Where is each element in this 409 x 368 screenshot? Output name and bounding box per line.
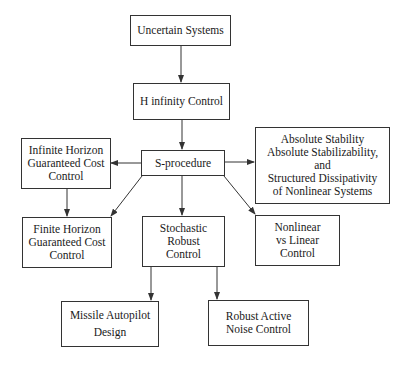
node-label: Control — [49, 249, 84, 262]
node-label: and — [314, 159, 331, 172]
node-label: Absolute Stability — [281, 133, 364, 146]
node-h-infinity-control: H infinity Control — [133, 83, 230, 120]
node-missile-autopilot: Missile Autopilot Design — [61, 301, 159, 347]
node-label: Stochastic — [160, 222, 207, 235]
node-label: Structured Dissipativity — [268, 172, 378, 185]
node-label: vs Linear — [276, 234, 319, 247]
node-robust-active-noise: Robust Active Noise Control — [208, 300, 309, 346]
node-label: Guaranteed Cost — [28, 157, 105, 170]
node-finite-horizon: Finite Horizon Guaranteed Cost Control — [22, 217, 112, 268]
node-label: S-procedure — [155, 157, 211, 170]
node-uncertain-systems: Uncertain Systems — [130, 15, 231, 46]
node-label: Noise Control — [226, 323, 291, 336]
node-infinite-horizon: Infinite Horizon Guaranteed Cost Control — [21, 138, 111, 189]
node-label: H infinity Control — [140, 95, 223, 108]
node-label: Robust Active — [226, 310, 292, 323]
arrow-sproc-to-nonlinear — [224, 176, 255, 214]
node-label: Control — [166, 248, 201, 261]
node-label: Control — [48, 170, 83, 183]
node-label: Guaranteed Cost — [29, 236, 106, 249]
node-s-procedure: S-procedure — [141, 150, 225, 176]
node-label: Robust — [167, 235, 200, 248]
node-label: Uncertain Systems — [137, 24, 224, 37]
node-label: Design — [94, 326, 127, 339]
arrow-sproc-to-finite — [111, 176, 142, 216]
node-nonlinear-vs-linear: Nonlinear vs Linear Control — [255, 215, 340, 266]
node-label: Finite Horizon — [33, 223, 100, 236]
node-label: Missile Autopilot — [70, 309, 150, 322]
node-stochastic-robust-control: Stochastic Robust Control — [142, 216, 225, 267]
node-label: Absolute Stabilizability, — [267, 146, 378, 159]
node-label: of Nonlinear Systems — [273, 185, 373, 198]
node-label: Control — [280, 247, 315, 260]
node-label: Nonlinear — [275, 221, 321, 234]
node-absolute-stability: Absolute Stability Absolute Stabilizabil… — [255, 127, 390, 204]
node-label: Infinite Horizon — [29, 144, 103, 157]
